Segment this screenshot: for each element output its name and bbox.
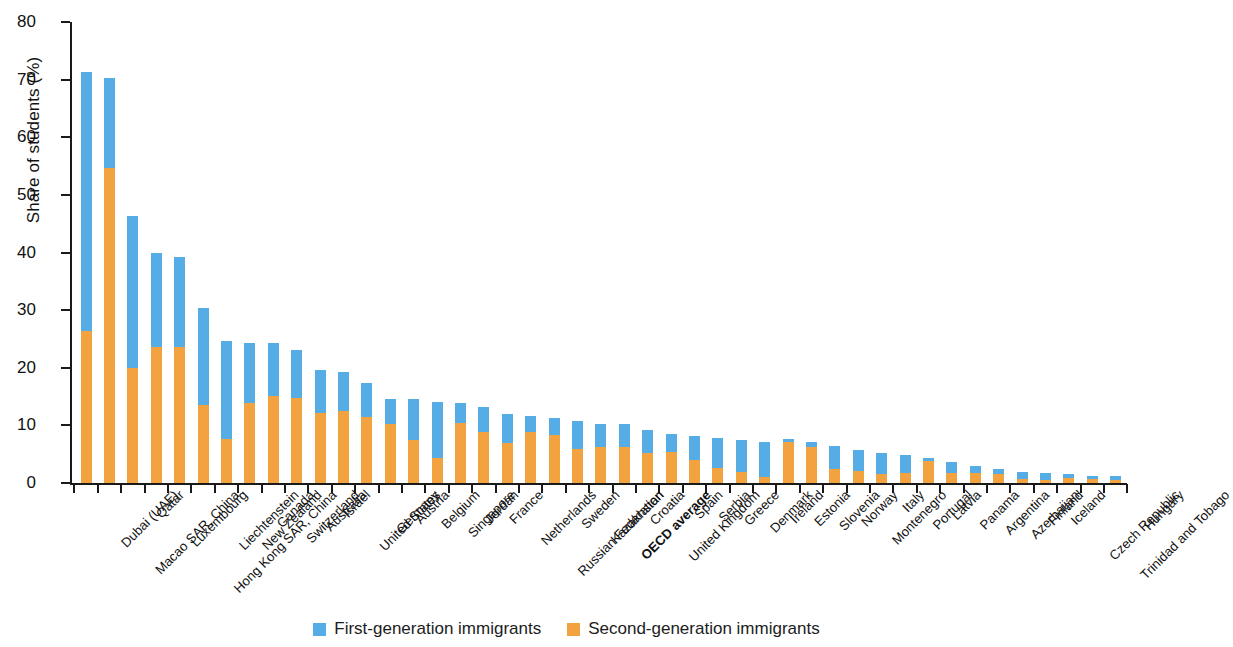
bar[interactable] xyxy=(268,343,279,483)
y-tick xyxy=(61,21,70,23)
bar-segment-first-generation xyxy=(478,407,489,432)
bar[interactable] xyxy=(736,440,747,483)
bar-segment-second-generation xyxy=(502,443,513,483)
bar-segment-first-generation xyxy=(502,414,513,442)
bar-segment-second-generation xyxy=(876,474,887,483)
bar-segment-first-generation xyxy=(408,399,419,439)
bar-segment-first-generation xyxy=(1017,472,1028,479)
bar-segment-second-generation xyxy=(549,435,560,483)
bar-segment-second-generation xyxy=(712,468,723,483)
bar-segment-second-generation xyxy=(1040,480,1051,483)
bar[interactable] xyxy=(81,72,92,483)
bar[interactable] xyxy=(432,402,443,483)
bar[interactable] xyxy=(666,434,677,483)
bar[interactable] xyxy=(829,446,840,483)
bar-segment-first-generation xyxy=(151,253,162,348)
bar[interactable] xyxy=(338,372,349,483)
bar[interactable] xyxy=(900,455,911,483)
bar[interactable] xyxy=(1087,476,1098,483)
bar-segment-second-generation xyxy=(338,411,349,483)
bar-segment-second-generation xyxy=(759,477,770,483)
bar-segment-first-generation xyxy=(736,440,747,472)
bar[interactable] xyxy=(759,442,770,483)
bar-segment-second-generation xyxy=(361,417,372,483)
bar[interactable] xyxy=(572,421,583,483)
y-tick-label: 80 xyxy=(0,13,36,30)
bar[interactable] xyxy=(923,458,934,483)
bar-segment-second-generation xyxy=(619,447,630,483)
legend-swatch-icon xyxy=(567,623,580,636)
y-tick xyxy=(61,367,70,369)
bar[interactable] xyxy=(689,436,700,483)
bar[interactable] xyxy=(783,439,794,483)
bar[interactable] xyxy=(946,462,957,483)
bar[interactable] xyxy=(853,450,864,483)
legend-item[interactable]: Second-generation immigrants xyxy=(567,619,820,639)
bar-segment-second-generation xyxy=(642,453,653,483)
bar-segment-first-generation xyxy=(595,424,606,448)
bar[interactable] xyxy=(1017,472,1028,483)
bar[interactable] xyxy=(525,416,536,483)
bar[interactable] xyxy=(385,399,396,483)
bar-segment-second-generation xyxy=(806,447,817,483)
bar-segment-first-generation xyxy=(946,462,957,472)
bar-segment-second-generation xyxy=(666,452,677,483)
bar-segment-second-generation xyxy=(151,347,162,483)
bar[interactable] xyxy=(127,216,138,483)
bar-segment-second-generation xyxy=(970,473,981,483)
bar[interactable] xyxy=(151,253,162,483)
bar[interactable] xyxy=(478,407,489,483)
bar[interactable] xyxy=(291,350,302,483)
bar[interactable] xyxy=(1110,476,1121,483)
bar-segment-first-generation xyxy=(853,450,864,471)
bar-segment-second-generation xyxy=(1063,478,1074,483)
bar[interactable] xyxy=(549,418,560,483)
bar[interactable] xyxy=(876,453,887,483)
bar[interactable] xyxy=(1040,473,1051,483)
bar[interactable] xyxy=(315,370,326,483)
bar[interactable] xyxy=(174,257,185,483)
bar[interactable] xyxy=(408,399,419,483)
bar-segment-second-generation xyxy=(315,413,326,483)
bar[interactable] xyxy=(712,438,723,484)
bar[interactable] xyxy=(221,341,232,483)
bar[interactable] xyxy=(619,424,630,483)
bar-segment-second-generation xyxy=(198,405,209,483)
y-tick-label: 50 xyxy=(0,186,36,203)
bar[interactable] xyxy=(806,442,817,483)
y-axis-line xyxy=(70,22,72,484)
bar-segment-first-generation xyxy=(829,446,840,469)
bar-segment-second-generation xyxy=(736,472,747,483)
y-tick-label: 60 xyxy=(0,128,36,145)
bar[interactable] xyxy=(1063,474,1074,483)
bar-segment-second-generation xyxy=(923,461,934,483)
bar-segment-second-generation xyxy=(104,168,115,483)
bar-segment-second-generation xyxy=(1017,479,1028,483)
bar-segment-second-generation xyxy=(1087,479,1098,483)
bar-segment-second-generation xyxy=(525,432,536,483)
bar[interactable] xyxy=(595,424,606,483)
bar[interactable] xyxy=(455,403,466,483)
bar-segment-second-generation xyxy=(595,447,606,483)
bar-segment-first-generation xyxy=(127,216,138,368)
bar-segment-first-generation xyxy=(1040,473,1051,480)
bar-segment-second-generation xyxy=(268,396,279,483)
bar-segment-first-generation xyxy=(970,466,981,473)
bar-segment-first-generation xyxy=(712,438,723,469)
plot-area: 01020304050607080 xyxy=(70,22,1125,483)
bar-segment-first-generation xyxy=(689,436,700,460)
bar[interactable] xyxy=(244,343,255,483)
legend-label: Second-generation immigrants xyxy=(588,619,820,639)
bar[interactable] xyxy=(104,78,115,483)
bar-segment-second-generation xyxy=(81,331,92,483)
bar-segment-first-generation xyxy=(338,372,349,411)
bar[interactable] xyxy=(198,308,209,483)
bar[interactable] xyxy=(502,414,513,483)
bar[interactable] xyxy=(361,383,372,483)
bar[interactable] xyxy=(970,466,981,483)
bar[interactable] xyxy=(993,469,1004,483)
bar-segment-second-generation xyxy=(408,440,419,483)
legend-item[interactable]: First-generation immigrants xyxy=(313,619,541,639)
bar[interactable] xyxy=(642,430,653,483)
